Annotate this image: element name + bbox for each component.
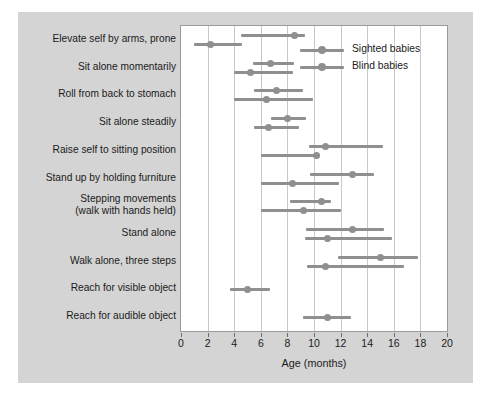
- median-dot: [267, 60, 274, 67]
- x-axis-title: Age (months): [180, 357, 448, 369]
- range-bar: [234, 98, 312, 101]
- figure-panel: Elevate self by arms, proneSit alone mom…: [18, 12, 473, 383]
- legend-item-sighted: Sighted babies: [300, 42, 450, 59]
- x-tick-label: 20: [441, 337, 453, 349]
- x-tick-label: 14: [361, 337, 373, 349]
- median-dot: [322, 263, 329, 270]
- category-label: Reach for audible object: [18, 310, 176, 322]
- range-bar: [306, 228, 384, 231]
- median-dot: [247, 69, 254, 76]
- median-dot: [349, 171, 356, 178]
- x-tick-label: 16: [388, 337, 400, 349]
- range-bar: [234, 71, 293, 74]
- median-dot: [300, 207, 307, 214]
- median-dot: [318, 198, 325, 205]
- category-label: Raise self to sitting position: [18, 144, 176, 156]
- median-dot: [244, 286, 251, 293]
- range-bar: [309, 145, 383, 148]
- median-dot: [324, 235, 331, 242]
- legend-dot-icon: [318, 63, 326, 71]
- category-label: Stepping movements (walk with hands held…: [18, 193, 176, 216]
- gridline: [208, 26, 209, 331]
- median-dot: [263, 96, 270, 103]
- median-dot: [291, 32, 298, 39]
- range-bar: [261, 154, 316, 157]
- category-label: Elevate self by arms, prone: [18, 33, 176, 45]
- x-tick-label: 8: [284, 337, 290, 349]
- x-tick-label: 4: [231, 337, 237, 349]
- category-label: Reach for visible object: [18, 282, 176, 294]
- legend-item-blind: Blind babies: [300, 59, 450, 76]
- category-label: Walk alone, three steps: [18, 255, 176, 267]
- legend-dot-icon: [318, 46, 326, 54]
- median-dot: [322, 143, 329, 150]
- category-label: Sit alone steadily: [18, 116, 176, 128]
- x-axis: 02468101214161820: [180, 333, 448, 353]
- category-label: Roll from back to stomach: [18, 88, 176, 100]
- legend: Sighted babies Blind babies: [300, 42, 450, 76]
- range-bar: [290, 200, 331, 203]
- median-dot: [349, 226, 356, 233]
- median-dot: [265, 124, 272, 131]
- range-bar: [254, 126, 299, 129]
- median-dot: [273, 87, 280, 94]
- median-dot: [289, 180, 296, 187]
- x-tick-label: 10: [308, 337, 320, 349]
- category-label: Sit alone momentarily: [18, 61, 176, 73]
- legend-label-blind: Blind babies: [352, 60, 408, 71]
- x-tick-label: 2: [205, 337, 211, 349]
- legend-label-sighted: Sighted babies: [352, 43, 420, 54]
- median-dot: [313, 152, 320, 159]
- range-bar: [194, 43, 242, 46]
- x-tick-label: 18: [415, 337, 427, 349]
- chart-canvas: Elevate self by arms, proneSit alone mom…: [18, 12, 473, 383]
- median-dot: [324, 314, 331, 321]
- range-bar: [305, 237, 393, 240]
- category-label: Stand alone: [18, 227, 176, 239]
- range-bar: [261, 182, 339, 185]
- category-label: Stand up by holding furniture: [18, 172, 176, 184]
- category-axis-labels: Elevate self by arms, proneSit alone mom…: [18, 25, 176, 332]
- x-tick-label: 0: [178, 337, 184, 349]
- median-dot: [207, 41, 214, 48]
- x-tick-label: 6: [258, 337, 264, 349]
- median-dot: [377, 254, 384, 261]
- median-dot: [284, 115, 291, 122]
- x-tick-label: 12: [335, 337, 347, 349]
- range-bar: [310, 173, 374, 176]
